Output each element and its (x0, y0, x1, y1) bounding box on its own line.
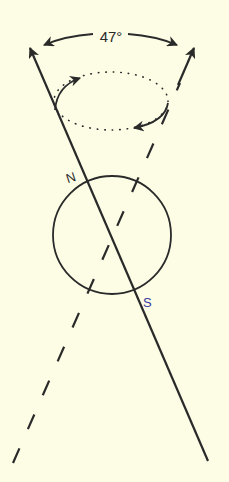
precession-path-ellipse (54, 72, 168, 130)
earth-circle (53, 176, 171, 294)
precession-arrow-upper-left (55, 78, 80, 110)
diagram-canvas: 47° N S (0, 0, 229, 482)
angle-label: 47° (100, 28, 123, 45)
angle-arc-right-arrow (128, 34, 177, 45)
north-label: N (64, 169, 78, 186)
south-label: S (143, 295, 152, 310)
precession-diagram: 47° N S (0, 0, 229, 482)
angle-arc-left-arrow (44, 34, 93, 45)
